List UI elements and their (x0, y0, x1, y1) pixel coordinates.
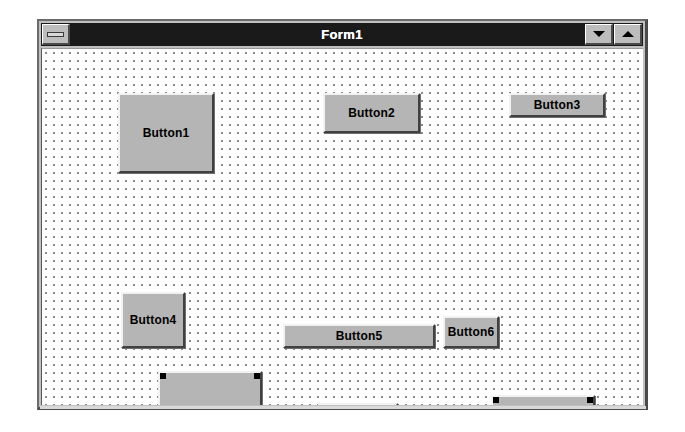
arrow-down-icon (593, 31, 605, 37)
title-bar[interactable]: Form1 (41, 23, 643, 46)
maximize-button[interactable] (614, 24, 642, 45)
form-button-label: Button2 (348, 106, 395, 120)
screenshot-canvas: Form1 Button1Button2Button3Button4Button… (0, 0, 685, 432)
form-button-label: Button1 (143, 126, 190, 140)
control-box-icon[interactable] (42, 24, 70, 45)
form-button-button2[interactable]: Button2 (323, 93, 420, 133)
selection-handle-tl[interactable] (492, 396, 499, 403)
form-designer-window[interactable]: Form1 Button1Button2Button3Button4Button… (37, 19, 648, 410)
selection-handle-tr[interactable] (390, 404, 397, 405)
form-button-button7[interactable]: Button7 (158, 371, 262, 405)
selection-handle-tl[interactable] (159, 372, 166, 379)
form-button-button3[interactable]: Button3 (509, 93, 605, 117)
form-button-button5[interactable]: Button5 (283, 324, 435, 348)
form-button-label: Button4 (130, 313, 177, 327)
form-button-label: Button6 (448, 325, 495, 339)
form-button-button1[interactable]: Button1 (118, 93, 214, 173)
minimize-button[interactable] (585, 24, 613, 45)
selection-handle-tl[interactable] (319, 404, 326, 405)
control-box-bar (47, 32, 64, 37)
window-bottom-edge (40, 406, 646, 409)
arrow-up-icon (622, 31, 634, 37)
form-button-label: Button3 (534, 98, 581, 112)
form-button-label: Button5 (336, 329, 383, 343)
form-button-button9[interactable]: Button9 (491, 395, 595, 405)
form-button-button6[interactable]: Button6 (443, 316, 499, 348)
form-design-surface[interactable]: Button1Button2Button3Button4Button5Butto… (41, 48, 643, 405)
selection-handle-tr[interactable] (587, 396, 594, 403)
form-button-button4[interactable]: Button4 (121, 292, 185, 348)
selection-handle-tr[interactable] (254, 372, 261, 379)
form-button-button8[interactable]: Button8 (318, 403, 398, 405)
title-bar-buttons (584, 24, 642, 45)
window-title: Form1 (41, 23, 643, 46)
